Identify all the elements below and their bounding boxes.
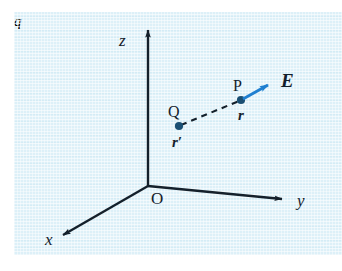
field-position-vector-label: r (238, 108, 244, 123)
origin-label: O (151, 190, 163, 207)
x-axis-label: x (45, 231, 53, 248)
y-axis-line (148, 186, 282, 199)
source-point-label: Q (168, 104, 180, 120)
y-axis-label: y (297, 192, 305, 209)
figure-panel: z y x O Q q r′ P r E (14, 12, 342, 255)
electric-field-label: E (281, 71, 294, 90)
separation-dashed-line (181, 101, 239, 125)
x-axis-line (63, 186, 148, 235)
figure-root: z y x O Q q r′ P r E (0, 0, 342, 271)
source-position-vector-label: r′ (172, 135, 182, 150)
field-point-label: P (233, 78, 242, 94)
source-charge-dot (175, 122, 183, 130)
z-axis-label: z (119, 32, 126, 49)
electric-field-vector (243, 85, 268, 99)
